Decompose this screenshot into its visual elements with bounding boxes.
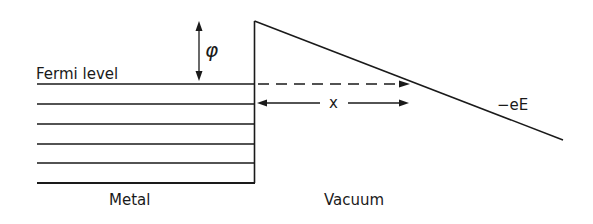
potential-slope [255,21,564,140]
vacuum-label: Vacuum [324,191,384,209]
arrowhead-right-icon [399,100,409,107]
arrowhead-right-icon [399,81,410,88]
arrowhead-left-icon [257,100,267,107]
energy-diagram: Fermi level φ x −eE Metal Vacuum [0,0,593,224]
distance-label: x [329,94,338,112]
fermi-level-label: Fermi level [36,65,118,83]
work-function-label: φ [205,38,218,62]
metal-label: Metal [109,191,150,209]
arrowhead-down-icon [196,71,203,81]
arrowhead-up-icon [196,21,203,31]
field-label: −eE [497,96,528,114]
